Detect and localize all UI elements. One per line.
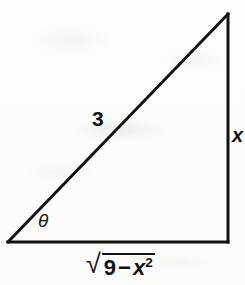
opposite-leg-label: x: [232, 125, 243, 145]
hypotenuse-label: 3: [92, 108, 104, 129]
radical-sign-icon: √: [86, 253, 101, 276]
right-triangle-shape: [0, 0, 245, 285]
triangle-side-hypotenuse: [8, 14, 228, 242]
triangle-outline: [8, 14, 228, 242]
radicand-exponent: 2: [145, 255, 153, 270]
adjacent-leg-label: √ 9−x2: [86, 253, 155, 279]
radicand-variable: x: [133, 255, 145, 280]
minus-operator: −: [116, 255, 133, 280]
angle-theta-label: θ: [38, 211, 48, 230]
triangle-figure: 3 x θ √ 9−x2: [0, 0, 245, 285]
radicand-first-term: 9: [104, 255, 116, 280]
radicand-expression: 9−x2: [102, 253, 155, 279]
